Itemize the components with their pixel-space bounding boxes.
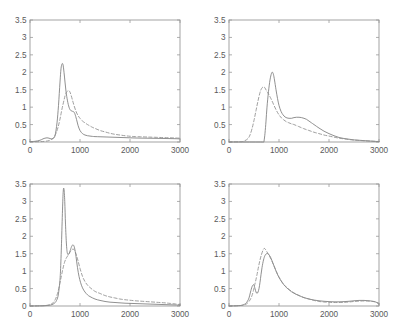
x-tick-label: 3000	[171, 310, 190, 319]
y-tick-label: 0	[221, 302, 226, 311]
y-tick-label: 2.5	[15, 51, 27, 60]
curve-solid	[30, 63, 180, 141]
y-tick-label: 1	[22, 267, 27, 276]
x-tick-label: 3000	[370, 310, 389, 319]
y-tick-label: 0.5	[214, 121, 226, 130]
y-tick-label: 3	[221, 197, 226, 206]
x-tick-label: 1000	[71, 310, 90, 319]
x-tick-label: 2000	[320, 310, 339, 319]
y-tick-label: 3.5	[15, 16, 27, 25]
y-tick-label: 3.5	[214, 16, 226, 25]
x-tick-label: 2000	[121, 310, 140, 319]
axis-box	[30, 184, 180, 306]
y-tick-label: 3.5	[214, 180, 226, 189]
plot-panel-bottom-right: 010002000300000.511.522.533.5	[199, 164, 398, 328]
y-tick-label: 1.5	[15, 250, 27, 259]
y-tick-label: 0	[221, 138, 226, 147]
x-tick-label: 3000	[171, 146, 190, 155]
y-tick-label: 1	[221, 103, 226, 112]
y-tick-label: 1.5	[214, 86, 226, 95]
y-tick-label: 0.5	[214, 285, 226, 294]
y-tick-label: 2.5	[15, 215, 27, 224]
y-tick-label: 1.5	[214, 250, 226, 259]
plot-panel-bottom-left: 010002000300000.511.522.533.5	[0, 164, 199, 328]
curve-dashed	[229, 87, 379, 142]
x-tick-label: 1000	[270, 310, 289, 319]
x-tick-label: 1000	[71, 146, 90, 155]
x-tick-label: 0	[28, 310, 33, 319]
curve-solid	[229, 254, 379, 306]
y-tick-label: 3.5	[15, 180, 27, 189]
y-tick-label: 1	[221, 267, 226, 276]
y-tick-label: 2	[22, 232, 27, 241]
y-tick-label: 0.5	[15, 121, 27, 130]
y-tick-label: 3	[221, 33, 226, 42]
x-tick-label: 0	[227, 146, 232, 155]
y-tick-label: 2.5	[214, 215, 226, 224]
y-tick-label: 1	[22, 103, 27, 112]
y-tick-label: 2	[221, 232, 226, 241]
curve-solid	[30, 188, 180, 306]
x-tick-label: 3000	[370, 146, 389, 155]
x-tick-label: 2000	[121, 146, 140, 155]
x-tick-label: 0	[28, 146, 33, 155]
plot-panel-top-right: 010002000300000.511.522.533.5	[199, 0, 398, 164]
y-tick-label: 2	[22, 68, 27, 77]
curve-dashed	[229, 248, 379, 306]
figure-grid: 010002000300000.511.522.533.501000200030…	[0, 0, 398, 328]
y-tick-label: 1.5	[15, 86, 27, 95]
y-tick-label: 0.5	[15, 285, 27, 294]
y-tick-label: 3	[22, 197, 27, 206]
y-tick-label: 2	[221, 68, 226, 77]
y-tick-label: 3	[22, 33, 27, 42]
y-tick-label: 2.5	[214, 51, 226, 60]
plot-panel-top-left: 010002000300000.511.522.533.5	[0, 0, 199, 164]
x-tick-label: 0	[227, 310, 232, 319]
axis-box	[30, 20, 180, 142]
axis-box	[229, 20, 379, 142]
x-tick-label: 2000	[320, 146, 339, 155]
x-tick-label: 1000	[270, 146, 289, 155]
y-tick-label: 0	[22, 138, 27, 147]
curve-dashed	[30, 91, 180, 142]
curve-dashed	[30, 249, 180, 306]
y-tick-label: 0	[22, 302, 27, 311]
